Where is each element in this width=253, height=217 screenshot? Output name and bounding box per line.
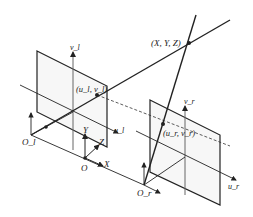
baseline [31, 135, 144, 185]
left-image-plane [20, 51, 118, 150]
right-u-axis-label: u_r [228, 182, 240, 191]
stereo-vision-diagram: (X, Y, Z) (u_l, v_l) (u_r, v_r) v_l u_l … [0, 0, 253, 217]
right-v-axis-label: v_r [184, 97, 196, 106]
left-image-point-label: (u_l, v_l) [76, 84, 107, 94]
left-v-axis-label: v_l [70, 43, 81, 52]
world-x-label: X [103, 159, 110, 169]
left-u-axis-label: u_l [114, 126, 125, 135]
right-image-point-marker [161, 122, 165, 126]
world-point-marker [187, 41, 191, 45]
left-origin-label: O_l [22, 137, 36, 147]
right-image-point-label: (u_r, v_r) [163, 128, 195, 138]
world-point-label: (X, Y, Z) [151, 38, 181, 48]
world-origin-label: O [81, 163, 88, 173]
right-origin-label: O_r [137, 188, 152, 198]
